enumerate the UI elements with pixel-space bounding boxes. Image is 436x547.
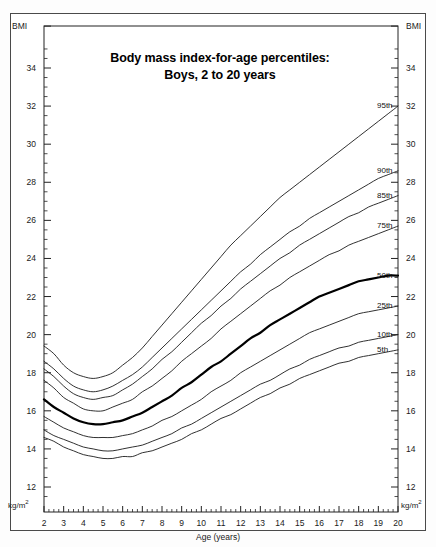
- percentile-curve-95th: [44, 106, 398, 378]
- x-tick-label-14: 14: [270, 519, 290, 528]
- x-tick-label-15: 15: [290, 519, 310, 528]
- percentile-curve-5th: [44, 350, 398, 459]
- percentile-curve-90th: [44, 171, 398, 392]
- y-tick-label-right-34: 34: [406, 64, 432, 73]
- y-axis-caption-right: BMI: [406, 22, 421, 31]
- y-unit-left-exponent: 2: [25, 499, 28, 505]
- x-tick-label-19: 19: [368, 519, 388, 528]
- percentile-label-95th: 95th: [377, 102, 393, 110]
- y-tick-label-left-28: 28: [10, 178, 36, 187]
- y-tick-label-right-30: 30: [406, 140, 432, 149]
- x-tick-label-10: 10: [191, 519, 211, 528]
- y-tick-label-left-22: 22: [10, 293, 36, 302]
- x-tick-label-6: 6: [113, 519, 133, 528]
- x-tick-label-3: 3: [54, 519, 74, 528]
- percentile-curve-50th: [44, 275, 398, 424]
- percentile-curve-25th: [44, 306, 398, 438]
- percentile-label-5th: 5th: [377, 346, 388, 354]
- x-tick-label-2: 2: [34, 519, 54, 528]
- y-tick-label-left-18: 18: [10, 369, 36, 378]
- x-tick-label-9: 9: [172, 519, 192, 528]
- y-tick-label-left-20: 20: [10, 331, 36, 340]
- x-axis-caption: Age (years): [0, 532, 436, 542]
- bmi-chart: Body mass index-for-age percentiles: Boy…: [0, 0, 436, 547]
- x-tick-label-13: 13: [250, 519, 270, 528]
- y-unit-left: kg/m2: [8, 499, 29, 510]
- x-tick-label-12: 12: [231, 519, 251, 528]
- y-tick-label-left-24: 24: [10, 254, 36, 263]
- y-tick-label-left-34: 34: [10, 64, 36, 73]
- y-tick-label-right-24: 24: [406, 254, 432, 263]
- percentile-label-85th: 85th: [377, 192, 393, 200]
- y-tick-label-right-32: 32: [406, 102, 432, 111]
- y-tick-label-right-22: 22: [406, 293, 432, 302]
- y-axis-caption-left: BMI: [12, 22, 27, 31]
- x-tick-label-16: 16: [309, 519, 329, 528]
- y-tick-label-left-26: 26: [10, 216, 36, 225]
- y-tick-label-right-28: 28: [406, 178, 432, 187]
- y-unit-left-base: kg/m: [8, 501, 25, 510]
- y-tick-label-right-12: 12: [406, 483, 432, 492]
- y-tick-label-right-18: 18: [406, 369, 432, 378]
- percentile-curve-85th: [44, 196, 398, 400]
- y-tick-label-left-32: 32: [10, 102, 36, 111]
- x-tick-label-4: 4: [73, 519, 93, 528]
- x-tick-label-7: 7: [132, 519, 152, 528]
- x-tick-label-20: 20: [388, 519, 408, 528]
- y-unit-right-exponent: 2: [418, 499, 421, 505]
- title-line-1: Body mass index-for-age percentiles:: [60, 50, 380, 67]
- percentile-label-25th: 25th: [377, 302, 393, 310]
- y-tick-label-right-14: 14: [406, 445, 432, 454]
- y-tick-label-right-20: 20: [406, 331, 432, 340]
- x-tick-label-5: 5: [93, 519, 113, 528]
- x-tick-label-11: 11: [211, 519, 231, 528]
- x-tick-label-17: 17: [329, 519, 349, 528]
- y-unit-right-base: kg/m: [401, 501, 418, 510]
- percentile-label-50th: 50th: [377, 272, 393, 280]
- title-line-2: Boys, 2 to 20 years: [60, 67, 380, 84]
- y-tick-label-left-14: 14: [10, 445, 36, 454]
- page-title: Body mass index-for-age percentiles: Boy…: [60, 50, 380, 84]
- y-tick-label-right-16: 16: [406, 407, 432, 416]
- percentile-label-90th: 90th: [377, 167, 393, 175]
- y-unit-right: kg/m2: [401, 499, 422, 510]
- percentile-label-75th: 75th: [377, 222, 393, 230]
- y-tick-label-left-16: 16: [10, 407, 36, 416]
- x-tick-label-18: 18: [349, 519, 369, 528]
- percentile-curve-10th: [44, 335, 398, 451]
- x-tick-label-8: 8: [152, 519, 172, 528]
- percentile-label-10th: 10th: [377, 331, 393, 339]
- y-tick-label-left-30: 30: [10, 140, 36, 149]
- y-tick-label-right-26: 26: [406, 216, 432, 225]
- y-tick-label-left-12: 12: [10, 483, 36, 492]
